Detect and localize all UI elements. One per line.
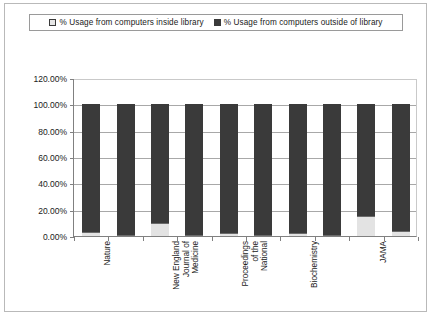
bar-segment-outside-library [185,104,203,234]
x-axis-category-label-line: National [260,241,270,313]
y-axis-tick-mark [70,158,74,159]
bar-segment-inside-library [151,223,169,236]
x-axis-category-label: New EnglandJournal ofMedicine [172,241,201,313]
y-axis-tick-label: 0.00% [1,232,67,242]
x-axis-category-label-line: Biochemistry [310,241,320,313]
bar-segment-outside-library [392,104,410,230]
x-axis-category-label-line: Medicine [191,241,201,313]
y-axis-tick-label: 40.00% [1,179,67,189]
bar-segment-outside-library [151,104,169,223]
bar-segment-outside-library [220,104,238,233]
bar-segment-outside-library [357,104,375,216]
y-axis-tick-mark [70,105,74,106]
y-axis-tick-label: 20.00% [1,206,67,216]
x-axis-category-label: Proceedingsof theNational [241,241,270,313]
chart-frame: % Usage from computers inside library % … [4,3,427,312]
x-axis-category-label-line: Journal of [182,241,192,313]
stacked-bar [220,104,238,236]
bar-segment-inside-library [357,216,375,236]
x-axis-category-label-line: Proceedings [241,241,251,313]
y-axis-tick-label: 100.00% [1,100,67,110]
stacked-bar [392,104,410,236]
bar-segment-inside-library [254,235,272,237]
y-axis-tick-label: 120.00% [1,74,67,84]
x-axis-category-labels: NatureNew EnglandJournal ofMedicineProce… [73,241,417,313]
stacked-bar [323,104,341,236]
gridline [74,79,416,80]
stacked-bar [289,104,307,236]
bar-segment-outside-library [82,104,100,232]
bar-segment-outside-library [323,104,341,234]
stacked-bar [254,104,272,236]
x-axis-category-label-line: JAMA [379,241,389,313]
y-axis-tick-mark [70,184,74,185]
bar-segment-inside-library [289,233,307,236]
bar-segment-outside-library [289,104,307,233]
bar-segment-outside-library [254,104,272,234]
bar-segment-inside-library [82,232,100,236]
x-axis-category-label-line: Nature [103,241,113,313]
y-axis-tick-label: 60.00% [1,153,67,163]
y-axis-tick-mark [70,211,74,212]
bar-segment-inside-library [392,231,410,236]
stacked-bar [357,104,375,236]
stacked-bar [151,104,169,236]
x-axis-tick-mark [418,237,419,241]
bar-segment-inside-library [220,233,238,236]
x-axis-category-label-line: of the [251,241,261,313]
stacked-bar [185,104,203,236]
stacked-bar [82,104,100,236]
x-axis-category-label: Nature [103,241,113,313]
y-axis-tick-mark [70,79,74,80]
x-axis-category-label: Biochemistry [310,241,320,313]
x-axis-category-label-line: New England [172,241,182,313]
y-axis-tick-mark [70,132,74,133]
bar-segment-inside-library [323,235,341,237]
plot-area [73,79,417,237]
y-axis-tick-label: 80.00% [1,127,67,137]
bar-segment-inside-library [117,235,135,237]
x-axis-category-label: JAMA [379,241,389,313]
stacked-bar [117,104,135,236]
bar-segment-inside-library [185,235,203,237]
bar-segment-outside-library [117,104,135,234]
